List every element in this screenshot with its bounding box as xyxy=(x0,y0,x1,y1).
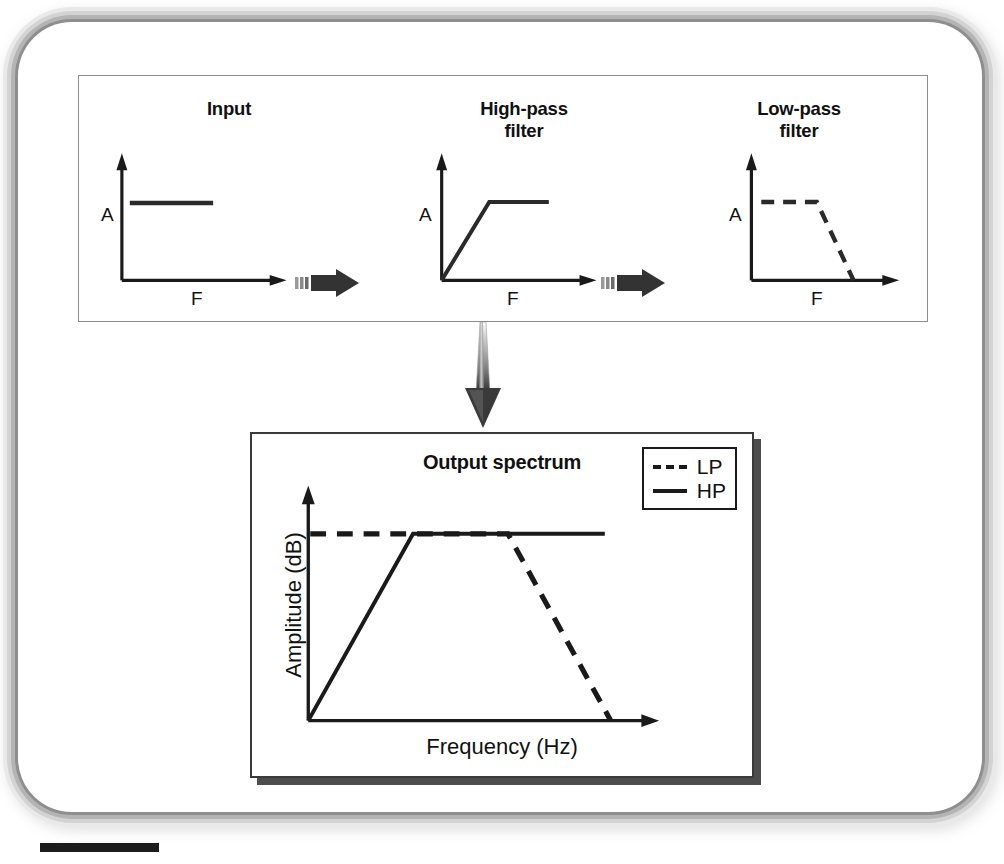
output-spectrum-plot xyxy=(252,434,752,776)
output-y-axis-title: Amplitude (dB) xyxy=(281,505,307,705)
output-x-axis-arrowhead xyxy=(641,714,659,727)
output-x-axis-title: Frequency (Hz) xyxy=(252,734,752,760)
stage-input: Input A F xyxy=(79,76,379,321)
arrow-input-to-highpass xyxy=(295,266,361,300)
low-pass-response-curve xyxy=(761,202,853,280)
input-y-axis-arrowhead xyxy=(116,153,127,170)
flow-down-arrow xyxy=(455,322,511,430)
low-pass-chart xyxy=(669,76,929,321)
low-pass-x-axis-arrowhead xyxy=(882,275,899,286)
high-pass-response-curve xyxy=(442,202,549,280)
stage-high-pass: High-pass filter A F xyxy=(379,76,669,321)
arrow-highpass-to-lowpass xyxy=(601,266,667,300)
high-pass-x-axis-label: F xyxy=(507,288,519,310)
input-x-axis-arrowhead xyxy=(270,275,287,286)
output-spectrum-panel: Output spectrum LP HP Amplitude (dB) Fre… xyxy=(250,432,754,778)
input-y-axis-label: A xyxy=(101,204,114,226)
low-pass-y-axis-arrowhead xyxy=(746,153,757,170)
output-curve-lp xyxy=(310,534,610,721)
input-x-axis-label: F xyxy=(191,288,203,310)
high-pass-x-axis-arrowhead xyxy=(580,275,597,286)
high-pass-y-axis-arrowhead xyxy=(436,153,447,170)
scale-bar xyxy=(40,843,159,852)
low-pass-x-axis-label: F xyxy=(811,288,823,310)
stage-low-pass: Low-pass filter A F xyxy=(669,76,929,321)
output-y-axis-arrowhead xyxy=(302,485,315,504)
filter-stages-panel: Input A F High-pass filter xyxy=(78,75,928,322)
high-pass-y-axis-label: A xyxy=(419,204,432,226)
low-pass-y-axis-label: A xyxy=(729,204,742,226)
